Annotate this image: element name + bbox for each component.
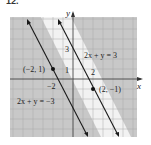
- tick-y-3: 3: [65, 45, 69, 54]
- point-label-right: (2, −1): [99, 85, 121, 94]
- tick-x-neg2: −2: [47, 82, 56, 91]
- equation-bottom: 2x + y = −3: [17, 97, 55, 106]
- tick-x-2: 2: [91, 68, 95, 77]
- point-neg2-1: [51, 67, 55, 71]
- y-axis-arrow-icon: [71, 11, 75, 17]
- point-2-neg1: [91, 87, 95, 91]
- axis-x-label: x: [136, 81, 141, 91]
- point-label-left: (−2, 1): [23, 65, 45, 74]
- tick-y-1: 1: [65, 66, 69, 75]
- axis-y-label: y: [65, 8, 70, 18]
- equation-top: 2x + y = 3: [84, 51, 117, 60]
- graph: y x 3 1 2 −2 (−2, 1) (2, −1) 2x + y = 3 …: [0, 0, 151, 145]
